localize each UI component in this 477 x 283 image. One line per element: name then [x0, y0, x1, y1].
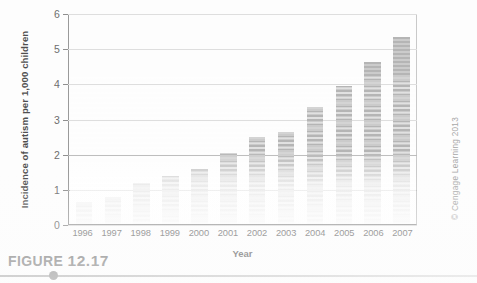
- y-axis-tick-3: [63, 120, 68, 121]
- caption-rule: [0, 275, 477, 277]
- figure-caption: FIGURE 12.17: [8, 252, 109, 270]
- figure-caption-number: 12.17: [68, 252, 109, 269]
- y-axis-tick-label-4: 4: [54, 78, 60, 90]
- y-axis-tick-label-6: 6: [54, 8, 60, 20]
- bar-1998[interactable]: [133, 183, 149, 223]
- bar-slot-2001: [214, 14, 243, 224]
- x-axis-tick-labels: 1996199719981999200020012002200320042005…: [68, 228, 417, 238]
- bar-slot-2007: [387, 14, 416, 224]
- bar-slot-2006: [358, 14, 387, 224]
- x-axis-tick-label-2002: 2002: [242, 228, 271, 238]
- y-axis-tick-0: [63, 225, 68, 226]
- y-axis-title: Incidence of autism per 1,000 children: [16, 14, 32, 225]
- caption-rule-dot: [49, 271, 58, 280]
- bar-2000[interactable]: [191, 169, 207, 224]
- x-axis-tick-label-2007: 2007: [388, 228, 417, 238]
- bar-1997[interactable]: [105, 197, 121, 223]
- figure-caption-prefix: FIGURE: [8, 253, 63, 269]
- bar-2005[interactable]: [336, 86, 352, 223]
- y-axis-tick-label-0: 0: [54, 219, 60, 231]
- bar-2002[interactable]: [249, 137, 265, 223]
- bar-2003[interactable]: [278, 132, 294, 223]
- x-axis-tick-label-2001: 2001: [213, 228, 242, 238]
- x-axis-tick-label-1997: 1997: [97, 228, 126, 238]
- bar-1999[interactable]: [162, 176, 178, 223]
- bar-slot-2004: [301, 14, 330, 224]
- y-axis-tick-4: [63, 84, 68, 85]
- x-axis-tick-label-1999: 1999: [155, 228, 184, 238]
- y-axis-tick-label-3: 3: [54, 114, 60, 126]
- y-axis-tick-label-2: 2: [54, 149, 60, 161]
- y-axis-tick-6: [63, 14, 68, 15]
- bar-slot-2000: [185, 14, 214, 224]
- bar-2007[interactable]: [393, 37, 409, 223]
- y-axis-tick-1: [63, 190, 68, 191]
- bar-slot-2002: [243, 14, 272, 224]
- plot-area: 0123456: [68, 14, 417, 225]
- x-axis-tick-label-2006: 2006: [359, 228, 388, 238]
- bar-2004[interactable]: [307, 107, 323, 223]
- bar-1996[interactable]: [76, 202, 92, 223]
- gridline-0: [68, 225, 417, 226]
- y-axis-tick-label-1: 1: [54, 184, 60, 196]
- x-axis-tick-label-2000: 2000: [184, 228, 213, 238]
- bar-series: [70, 14, 417, 224]
- figure-container: Incidence of autism per 1,000 children 0…: [0, 0, 477, 283]
- bar-slot-1996: [70, 14, 99, 224]
- bar-2001[interactable]: [220, 153, 236, 223]
- bar-slot-1999: [156, 14, 185, 224]
- copyright-credit: © Cengage Learning 2013: [451, 100, 460, 220]
- x-axis-tick-label-1996: 1996: [68, 228, 97, 238]
- y-axis-tick-5: [63, 49, 68, 50]
- bar-slot-2003: [272, 14, 301, 224]
- x-axis-tick-label-2004: 2004: [301, 228, 330, 238]
- x-axis-tick-label-2005: 2005: [330, 228, 359, 238]
- x-axis-tick-label-1998: 1998: [126, 228, 155, 238]
- bar-slot-2005: [329, 14, 358, 224]
- x-axis-tick-label-2003: 2003: [272, 228, 301, 238]
- bar-2006[interactable]: [364, 62, 380, 224]
- bar-slot-1998: [127, 14, 156, 224]
- bar-slot-1997: [98, 14, 127, 224]
- y-axis-tick-2: [63, 155, 68, 156]
- y-axis-tick-label-5: 5: [54, 43, 60, 55]
- x-axis-title: Year: [68, 248, 417, 259]
